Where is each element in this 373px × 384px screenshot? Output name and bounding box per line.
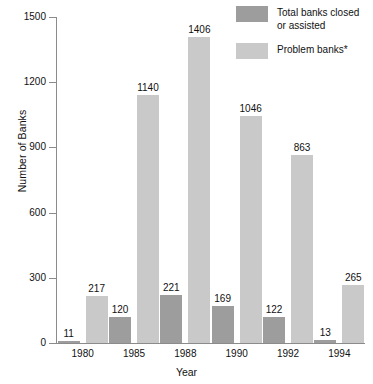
bar-1990-problem: 1046 bbox=[240, 116, 262, 343]
y-axis-tick-label: 0 bbox=[40, 336, 46, 349]
bar-value-label: 863 bbox=[294, 142, 311, 153]
bar-value-label: 11 bbox=[63, 328, 73, 339]
y-axis-tick: 1200 bbox=[49, 82, 56, 83]
bar-1985-problem: 1140 bbox=[137, 95, 159, 343]
x-axis-tick-label-1994: 1994 bbox=[314, 348, 364, 359]
bar-1992-problem: 863 bbox=[291, 155, 313, 343]
legend-swatch-icon bbox=[236, 43, 268, 59]
y-axis-tick: 600 bbox=[49, 213, 56, 214]
bar-1985-closed: 120 bbox=[109, 317, 131, 343]
y-axis-tick-label: 600 bbox=[29, 206, 46, 219]
y-axis-line bbox=[56, 17, 57, 344]
y-axis-title: Number of Banks bbox=[16, 81, 28, 221]
legend-item-label: Problem banks* bbox=[277, 43, 348, 57]
bar-1980-closed: 11 bbox=[58, 341, 80, 343]
y-axis-tick: 300 bbox=[49, 278, 56, 279]
bar-value-label: 120 bbox=[112, 304, 129, 315]
chart-legend: Total banks closed or assistedProblem ba… bbox=[236, 6, 359, 70]
y-axis-tick: 900 bbox=[49, 147, 56, 148]
bar-value-label: 221 bbox=[163, 282, 180, 293]
legend-item-problem-banks: Problem banks* bbox=[236, 43, 359, 59]
bank-failures-bar-chart: Number of Banks 030060090012001500 19801… bbox=[0, 0, 373, 384]
legend-item-label: Total banks closed or assisted bbox=[277, 6, 359, 32]
bar-1994-closed: 13 bbox=[314, 340, 336, 343]
bar-1988-problem: 1406 bbox=[188, 37, 210, 343]
bar-value-label: 265 bbox=[345, 272, 362, 283]
y-axis-tick-label: 1500 bbox=[24, 10, 46, 23]
bar-value-label: 1406 bbox=[188, 24, 210, 35]
bar-value-label: 122 bbox=[266, 304, 283, 315]
bar-1992-closed: 122 bbox=[263, 317, 285, 344]
y-axis-tick: 0 bbox=[49, 343, 56, 344]
x-axis-tick-label-1988: 1988 bbox=[160, 348, 210, 359]
x-axis-line bbox=[56, 343, 365, 344]
legend-swatch-icon bbox=[236, 6, 268, 22]
y-axis-tick: 1500 bbox=[49, 17, 56, 18]
x-axis-tick-label-1980: 1980 bbox=[58, 348, 108, 359]
x-axis-tick-label-1992: 1992 bbox=[263, 348, 313, 359]
bar-value-label: 1140 bbox=[137, 82, 159, 93]
bar-value-label: 169 bbox=[214, 293, 231, 304]
x-axis-tick-label-1990: 1990 bbox=[212, 348, 262, 359]
legend-item-total-banks-closed: Total banks closed or assisted bbox=[236, 6, 359, 32]
bar-1980-problem: 217 bbox=[86, 296, 108, 343]
bar-value-label: 13 bbox=[320, 327, 331, 338]
y-axis-tick-label: 1200 bbox=[24, 75, 46, 88]
bar-1988-closed: 221 bbox=[160, 295, 182, 343]
bar-value-label: 1046 bbox=[240, 103, 262, 114]
y-axis-tick-label: 300 bbox=[29, 271, 46, 284]
x-axis-tick-label-1985: 1985 bbox=[109, 348, 159, 359]
bar-1990-closed: 169 bbox=[212, 306, 234, 343]
y-axis-tick-label: 900 bbox=[29, 140, 46, 153]
bar-value-label: 217 bbox=[88, 283, 105, 294]
x-axis-title: Year bbox=[0, 366, 373, 378]
bar-1994-problem: 265 bbox=[342, 285, 364, 343]
